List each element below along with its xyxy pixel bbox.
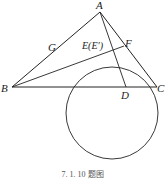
label-f: F: [125, 38, 132, 49]
label-g: G: [48, 42, 56, 53]
segment-ad: [100, 12, 126, 87]
label-d: D: [121, 90, 129, 101]
label-e: E(E′): [82, 41, 103, 51]
figure-caption: 7. 1. 10 题图: [0, 168, 165, 179]
geometry-figure: [0, 0, 165, 181]
segment-bf: [12, 46, 124, 87]
label-c: C: [157, 83, 164, 94]
label-b: B: [1, 83, 8, 94]
label-a: A: [96, 0, 103, 11]
segment-ac: [100, 12, 157, 87]
circle: [66, 67, 158, 159]
